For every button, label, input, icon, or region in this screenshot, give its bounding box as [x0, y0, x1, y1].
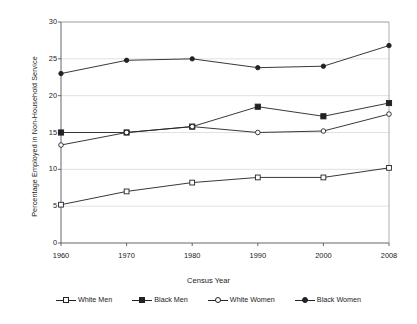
- x-axis-title: Census Year: [0, 276, 417, 285]
- legend-item-black-men[interactable]: Black Men: [132, 296, 188, 304]
- legend-label: White Women: [230, 296, 275, 304]
- data-point-black-men[interactable]: [386, 100, 391, 105]
- series-line-black-women: [61, 46, 389, 74]
- data-point-white-men[interactable]: [124, 189, 129, 194]
- legend-item-white-men[interactable]: White Men: [56, 296, 112, 304]
- chart-container: Percentage Employed in Non-Household Ser…: [0, 0, 417, 324]
- legend-marker-circle-open-icon: [208, 296, 228, 304]
- data-point-white-women[interactable]: [190, 124, 195, 129]
- data-point-white-men[interactable]: [190, 180, 195, 185]
- data-point-black-women[interactable]: [256, 65, 260, 69]
- data-point-black-women[interactable]: [190, 57, 194, 61]
- data-point-black-women[interactable]: [59, 71, 63, 75]
- legend-label: Black Men: [154, 296, 188, 304]
- legend-item-white-women[interactable]: White Women: [208, 296, 275, 304]
- data-point-black-men[interactable]: [58, 130, 63, 135]
- data-point-white-women[interactable]: [124, 130, 129, 135]
- data-point-white-men[interactable]: [255, 175, 260, 180]
- data-point-black-women[interactable]: [321, 64, 325, 68]
- data-point-white-women[interactable]: [255, 130, 260, 135]
- series-line-black-men: [61, 103, 389, 132]
- data-point-white-women[interactable]: [387, 112, 392, 117]
- legend-marker-circle-filled-icon: [295, 296, 315, 304]
- data-point-white-men[interactable]: [321, 175, 326, 180]
- legend-marker-square-filled-icon: [132, 296, 152, 304]
- data-point-white-men[interactable]: [387, 165, 392, 170]
- series-line-white-men: [61, 168, 389, 205]
- legend-item-black-women[interactable]: Black Women: [295, 296, 361, 304]
- data-point-black-men[interactable]: [321, 114, 326, 119]
- data-point-black-women[interactable]: [387, 43, 391, 47]
- series-line-white-women: [61, 114, 389, 145]
- legend-marker-square-open-icon: [56, 296, 76, 304]
- data-point-white-men[interactable]: [59, 202, 64, 207]
- data-point-black-men[interactable]: [255, 104, 260, 109]
- legend-label: White Men: [78, 296, 112, 304]
- data-point-black-women[interactable]: [124, 58, 128, 62]
- data-point-white-women[interactable]: [321, 129, 326, 134]
- chart-legend: White MenBlack MenWhite WomenBlack Women: [0, 296, 417, 304]
- data-point-white-women[interactable]: [59, 143, 64, 148]
- legend-label: Black Women: [317, 296, 361, 304]
